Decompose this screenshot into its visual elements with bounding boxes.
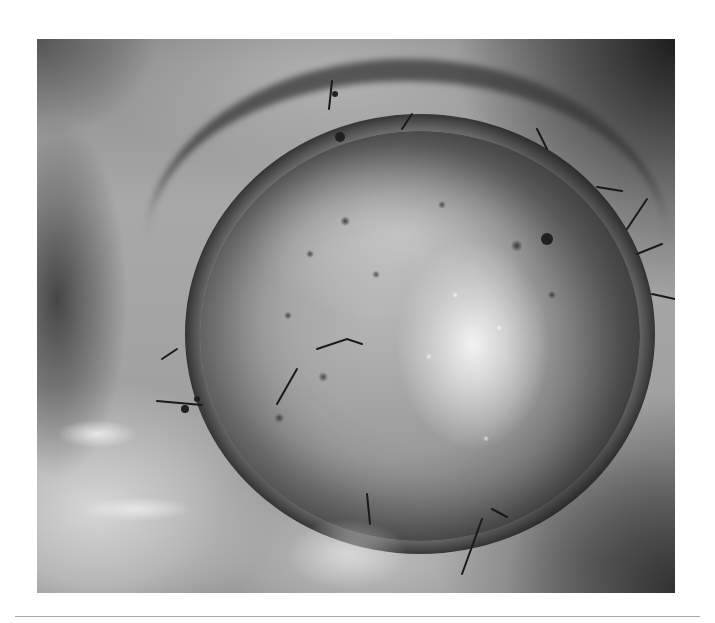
clinical-photo bbox=[37, 39, 675, 593]
bottom-divider bbox=[15, 616, 700, 617]
suture-lines bbox=[37, 39, 675, 593]
